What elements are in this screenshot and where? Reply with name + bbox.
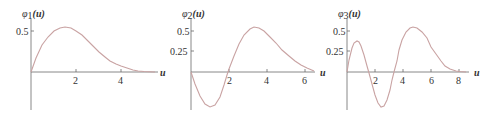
panel-3-chart: 0.5 0.25 2 4 6 8 u φ3(u) <box>326 8 480 110</box>
panel-2-x-label: u <box>320 67 326 78</box>
panel-2-curve <box>191 27 314 107</box>
panel-2-xtick-4: 4 <box>264 75 269 86</box>
panel-2-xtick-2: 2 <box>227 75 232 86</box>
panel-3-y-label: φ3(u) <box>338 8 361 21</box>
panel-3-ytick-0.5: 0.5 <box>333 26 346 37</box>
panel-1-x-label: u <box>160 67 166 78</box>
panel-2-y-label: φ2(u) <box>182 8 205 21</box>
panel-3-x-label: u <box>474 67 480 78</box>
panel-1-chart: 0.5 2 4 u φ1(u) <box>16 8 166 110</box>
panel-3-curve <box>347 27 466 107</box>
panel-3-xtick-8: 8 <box>456 75 461 86</box>
panel-1-ytick-0.5: 0.5 <box>16 26 29 37</box>
panel-3-xtick-4: 4 <box>400 75 405 86</box>
panel-2-ytick-0.25: 0.25 <box>170 46 188 57</box>
figure: 0.5 2 4 u φ1(u) 0.5 0.25 2 4 6 u φ2(u) <box>0 0 493 116</box>
panel-2-xtick-6: 6 <box>302 75 307 86</box>
panel-1-y-label: φ1(u) <box>22 8 45 21</box>
panel-1-curve <box>31 27 155 72</box>
panel-1-xtick-4: 4 <box>118 75 123 86</box>
panel-3-ytick-0.25: 0.25 <box>326 46 344 57</box>
panel-2-ytick-0.5: 0.5 <box>177 26 190 37</box>
panel-3-xtick-2: 2 <box>373 75 378 86</box>
panel-1-xtick-2: 2 <box>73 75 78 86</box>
panel-2-chart: 0.5 0.25 2 4 6 u φ2(u) <box>170 8 326 110</box>
panel-3-xtick-6: 6 <box>429 75 434 86</box>
